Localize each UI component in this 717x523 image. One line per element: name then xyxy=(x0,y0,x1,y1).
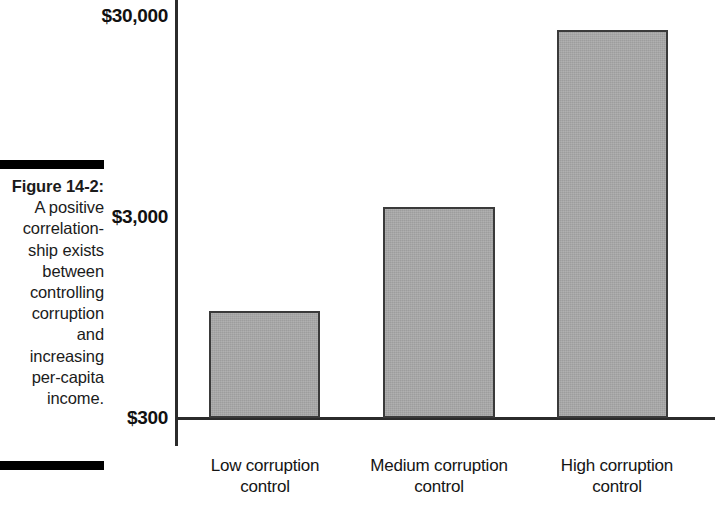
x-tick-label-high-line1: High corruption xyxy=(537,455,697,476)
bar-medium-corruption-control xyxy=(383,207,495,418)
x-tick-label-medium-line1: Medium corruption xyxy=(349,455,529,476)
y-tick-mark-300 xyxy=(176,417,189,419)
x-tick-label-medium-line2: control xyxy=(349,476,529,497)
x-tick-label-low-line2: control xyxy=(185,476,345,497)
x-tick-label-low-line1: Low corruption xyxy=(185,455,345,476)
y-tick-label-3000: $3,000 xyxy=(64,206,168,228)
figure-screenshot: Figure 14-2: A positive correlation- shi… xyxy=(0,0,717,523)
bar-chart: $30,000 $3,000 $300 Low corruption contr… xyxy=(0,0,717,523)
bar-low-corruption-control xyxy=(209,311,320,418)
y-axis-line xyxy=(175,0,178,446)
bar-high-corruption-control xyxy=(557,30,668,418)
x-tick-label-high-line2: control xyxy=(537,476,697,497)
x-tick-label-low: Low corruption control xyxy=(185,455,345,497)
y-tick-label-30000: $30,000 xyxy=(64,5,168,27)
y-tick-label-300: $300 xyxy=(64,407,168,429)
x-tick-label-medium: Medium corruption control xyxy=(349,455,529,497)
x-tick-label-high: High corruption control xyxy=(537,455,697,497)
